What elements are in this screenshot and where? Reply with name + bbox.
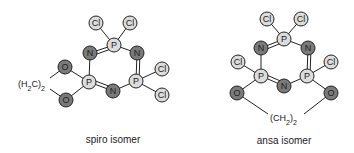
svg-text:P: P <box>281 34 287 44</box>
svg-text:Cl: Cl <box>297 14 306 24</box>
ansa-atom-o: O <box>324 86 338 100</box>
svg-text:O: O <box>62 95 69 105</box>
spiro-atom-cl: Cl <box>155 88 169 102</box>
spiro-atom-n: N <box>106 84 120 98</box>
ansa-atom-n: N <box>301 41 315 55</box>
svg-text:N: N <box>110 86 117 96</box>
ansa-atom-n: N <box>277 79 291 93</box>
spiro-atom-cl: Cl <box>155 62 169 76</box>
spiro-atom-n: N <box>130 46 144 60</box>
ansa-atom-cl: Cl <box>294 12 308 26</box>
spiro-atom-cl: Cl <box>89 16 103 30</box>
isomer-diagram: (H2C)2 (CH2)2 ClClPNNPPNClClOOClClPNNPPN… <box>0 0 354 153</box>
ansa-atom-cl: Cl <box>260 12 274 26</box>
spiro-atom-o: O <box>58 60 72 74</box>
svg-text:Cl: Cl <box>234 57 243 67</box>
svg-text:N: N <box>281 81 288 91</box>
spiro-atom-p: P <box>82 75 96 89</box>
spiro-caption: spiro isomer <box>86 134 141 145</box>
svg-text:P: P <box>111 40 117 50</box>
ansa-atom-p: P <box>277 32 291 46</box>
spiro-atom-o: O <box>59 93 73 107</box>
spiro-atom-p: P <box>107 38 121 52</box>
spiro-atom-p: P <box>129 74 143 88</box>
svg-text:Cl: Cl <box>126 18 135 28</box>
atoms: ClClPNNPPNClClOOClClPNNPPNClClOO <box>58 12 338 107</box>
ansa-caption: ansa isomer <box>257 135 312 146</box>
svg-text:N: N <box>134 48 141 58</box>
svg-text:P: P <box>133 76 139 86</box>
svg-text:O: O <box>327 88 334 98</box>
ansa-bridge-label: (CH2)2 <box>270 113 297 126</box>
svg-text:N: N <box>305 43 312 53</box>
svg-text:Cl: Cl <box>158 90 167 100</box>
ansa-atom-cl: Cl <box>324 55 338 69</box>
svg-text:N: N <box>87 48 94 58</box>
spiro-bridge-label: (H2C)2 <box>18 79 45 92</box>
ansa-atom-p: P <box>300 69 314 83</box>
svg-text:P: P <box>258 71 264 81</box>
svg-text:Cl: Cl <box>263 14 272 24</box>
svg-text:P: P <box>86 77 92 87</box>
spiro-atom-n: N <box>83 46 97 60</box>
svg-text:Cl: Cl <box>158 64 167 74</box>
spiro-atom-cl: Cl <box>123 16 137 30</box>
ansa-atom-p: P <box>254 69 268 83</box>
svg-text:Cl: Cl <box>92 18 101 28</box>
svg-text:Cl: Cl <box>327 57 336 67</box>
ansa-atom-cl: Cl <box>231 55 245 69</box>
svg-text:P: P <box>304 71 310 81</box>
ansa-atom-o: O <box>230 86 244 100</box>
svg-text:O: O <box>233 88 240 98</box>
ansa-atom-n: N <box>254 41 268 55</box>
svg-text:N: N <box>258 43 265 53</box>
svg-text:O: O <box>61 62 68 72</box>
